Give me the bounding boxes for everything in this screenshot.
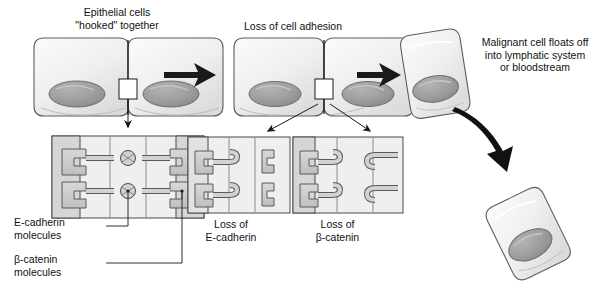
junction-panel-loss-e-cadherin	[188, 137, 290, 213]
arrow-float-off	[452, 107, 513, 172]
malignant-cell-floating	[483, 184, 574, 283]
diagram-canvas: Epithelial cells "hooked" together Loss …	[0, 0, 615, 295]
junction-panel-loss-beta-catenin	[293, 137, 403, 213]
diagram-artwork	[0, 0, 615, 295]
malignant-cell-detached	[399, 28, 471, 120]
